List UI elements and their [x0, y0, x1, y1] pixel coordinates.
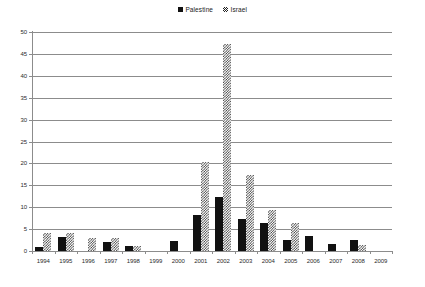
bar-group-1999	[145, 32, 168, 251]
bar-israel-2001	[201, 162, 209, 251]
bar-israel-1994	[43, 233, 51, 251]
bar-group-2004	[257, 32, 280, 251]
bar-group-2005	[280, 32, 303, 251]
y-axis-label-10: 10	[7, 204, 27, 210]
bar-chart: Palestine Israel 05101520253035404550 19…	[0, 0, 425, 287]
bar-israel-2003	[246, 175, 254, 251]
x-tick-2006	[302, 251, 303, 254]
bar-group-2008	[347, 32, 370, 251]
x-tick-2008	[347, 251, 348, 254]
bar-group-2006	[302, 32, 325, 251]
x-tick-2007	[325, 251, 326, 254]
y-axis-label-50: 50	[7, 29, 27, 35]
bar-israel-2002	[223, 44, 231, 251]
legend-swatch-solid-icon	[178, 7, 183, 12]
legend-entry-palestine: Palestine	[178, 6, 213, 13]
bar-group-1995	[55, 32, 78, 251]
bar-palestine-2004	[260, 223, 268, 251]
bar-palestine-2000	[170, 241, 178, 251]
y-axis-label-40: 40	[7, 72, 27, 78]
legend-label-palestine: Palestine	[185, 6, 213, 13]
x-tick-1998	[122, 251, 123, 254]
bar-israel-2004	[268, 210, 276, 251]
bar-israel-1997	[111, 238, 119, 251]
bar-palestine-1995	[58, 237, 66, 251]
bar-group-2003	[235, 32, 258, 251]
bar-group-1998	[122, 32, 145, 251]
chart-legend: Palestine Israel	[0, 6, 425, 13]
y-axis-label-45: 45	[7, 50, 27, 56]
bar-israel-2005	[291, 223, 299, 251]
bar-palestine-2002	[215, 197, 223, 251]
bar-group-1996	[77, 32, 100, 251]
bar-group-2009	[370, 32, 393, 251]
y-axis-label-5: 5	[7, 226, 27, 232]
y-axis-label-20: 20	[7, 160, 27, 166]
bar-palestine-2003	[238, 219, 246, 251]
x-axis-label-2009: 2009	[364, 258, 398, 264]
bar-israel-1995	[66, 233, 74, 251]
x-tick-1996	[77, 251, 78, 254]
x-tick-2001	[190, 251, 191, 254]
x-tick-1995	[55, 251, 56, 254]
x-axis-labels: 1994199519961997199819992000200120022003…	[32, 258, 393, 272]
bar-palestine-2001	[193, 215, 201, 251]
plot-area	[32, 32, 392, 251]
x-tick-1994	[32, 251, 33, 254]
y-axis-label-0: 0	[7, 248, 27, 254]
y-axis-label-15: 15	[7, 182, 27, 188]
bar-group-2001	[190, 32, 213, 251]
bar-palestine-2005	[283, 240, 291, 251]
bar-group-2000	[167, 32, 190, 251]
y-axis-label-35: 35	[7, 94, 27, 100]
bar-group-2007	[325, 32, 348, 251]
bar-group-2002	[212, 32, 235, 251]
x-tick-end	[392, 251, 393, 254]
bar-palestine-1997	[103, 242, 111, 251]
x-tick-2002	[212, 251, 213, 254]
x-tick-2005	[280, 251, 281, 254]
bar-palestine-2008	[350, 240, 358, 251]
x-tick-2000	[167, 251, 168, 254]
bar-group-1997	[100, 32, 123, 251]
x-tick-1997	[100, 251, 101, 254]
x-tick-2003	[235, 251, 236, 254]
legend-entry-israel: Israel	[223, 6, 247, 13]
legend-label-israel: Israel	[231, 6, 248, 13]
bar-israel-1996	[88, 238, 96, 251]
bar-group-1994	[32, 32, 55, 251]
y-axis-label-25: 25	[7, 138, 27, 144]
x-tick-2009	[370, 251, 371, 254]
x-axis-ticks	[32, 251, 393, 257]
bars-container	[32, 32, 392, 251]
bar-palestine-2006	[305, 236, 313, 251]
x-tick-2004	[257, 251, 258, 254]
x-tick-1999	[145, 251, 146, 254]
legend-swatch-hatched-icon	[223, 7, 228, 12]
y-axis-label-30: 30	[7, 116, 27, 122]
